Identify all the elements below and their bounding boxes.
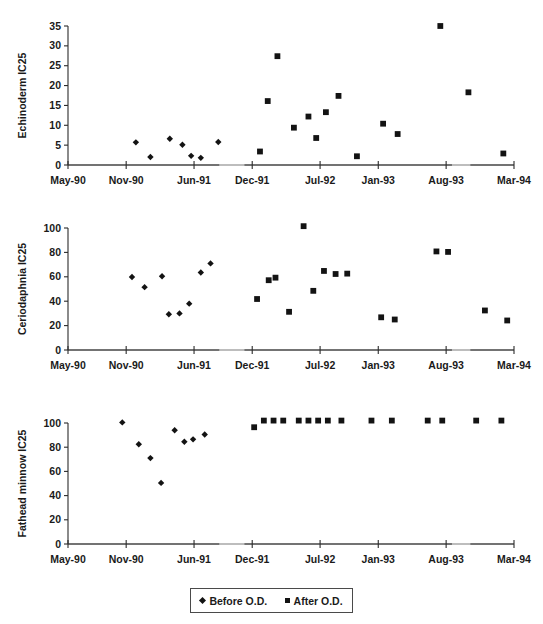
x-axis-tick-label: May-90 [50,174,86,186]
y-axis-tick-label: 100 [43,222,61,234]
y-axis-tick-label: 20 [49,79,61,91]
data-point-square [280,418,286,424]
y-axis-tick-label: 0 [55,159,61,171]
x-axis-tick-label: Jun-91 [177,174,211,186]
data-point-square [395,131,401,137]
data-point-diamond [141,284,147,290]
x-axis-tick-label: Nov-90 [109,174,144,186]
data-point-square [265,98,271,104]
data-point-square [425,418,431,424]
data-point-square [271,418,277,424]
data-point-square [473,418,479,424]
data-point-diamond [215,139,221,145]
x-axis-tick-label: Jun-91 [177,359,211,371]
data-point-square [251,424,257,430]
data-point-square [344,271,350,277]
y-axis-tick-label: 60 [49,270,61,282]
data-point-square [336,93,342,99]
chart-panel-ceriodaphnia: 020406080100May-90Nov-90Jun-91Dec-91Jul-… [0,195,543,391]
data-point-square [321,268,327,274]
data-point-diamond [179,142,185,148]
data-point-diamond [186,300,192,306]
data-point-square [482,308,488,314]
figure-root: 05101520253035May-90Nov-90Jun-91Dec-91Ju… [0,0,543,624]
x-axis-tick-label: Jan-93 [362,553,395,565]
x-axis-tick-label: Jul-92 [305,174,336,186]
x-axis-tick-label: Jan-93 [362,174,395,186]
legend-entry-after: After O.D. [285,594,343,607]
data-point-diamond [188,153,194,159]
y-axis-tick-label: 20 [49,513,61,525]
data-point-square [437,23,443,29]
data-point-square [333,271,339,277]
y-axis-tick-label: 100 [43,417,61,429]
x-axis-tick-label: Nov-90 [109,359,144,371]
data-point-diamond [176,310,182,316]
data-point-square [504,318,510,324]
x-axis-tick-label: Jul-92 [305,553,336,565]
data-point-diamond [166,311,172,317]
data-point-diamond [147,455,153,461]
data-point-square [498,418,504,424]
data-point-square [378,314,384,320]
y-axis-tick-label: 10 [49,119,61,131]
data-point-square [389,418,395,424]
x-axis-tick-label: Nov-90 [109,553,144,565]
data-point-diamond [181,439,187,445]
data-point-square [286,309,292,315]
data-point-square [369,418,375,424]
y-axis-tick-label: 40 [49,489,61,501]
data-point-square [380,121,386,127]
x-axis-tick-label: Jun-91 [177,553,211,565]
y-axis-tick-label: 80 [49,441,61,453]
data-point-diamond [119,419,125,425]
data-point-square [323,109,329,115]
scatter-plot-echinoderm: 05101520253035May-90Nov-90Jun-91Dec-91Ju… [0,0,543,195]
legend-container: Before O.D. After O.D. [190,588,352,613]
scatter-plot-fathead-minnow: 020406080100May-90Nov-90Jun-91Dec-91Jul-… [0,391,543,576]
data-point-square [434,249,440,255]
data-point-square [500,151,506,157]
data-point-square [273,275,279,281]
data-point-diamond [133,139,139,145]
y-axis-tick-label: 60 [49,465,61,477]
x-axis-tick-label: Mar-94 [497,359,531,371]
scatter-plot-ceriodaphnia: 020406080100May-90Nov-90Jun-91Dec-91Jul-… [0,195,543,391]
data-point-square [439,418,445,424]
x-axis-tick-label: Jan-93 [362,359,395,371]
y-axis-tick-label: 20 [49,319,61,331]
x-axis-tick-label: Mar-94 [497,553,531,565]
data-point-square [254,296,260,302]
data-point-square [306,418,312,424]
x-axis-tick-label: Dec-91 [235,553,270,565]
chart-panel-fathead-minnow: 020406080100May-90Nov-90Jun-91Dec-91Jul-… [0,391,543,576]
x-axis-tick-label: May-90 [50,553,86,565]
data-point-diamond [129,274,135,280]
data-point-diamond [147,154,153,160]
series-before-od [129,260,214,317]
x-axis-tick-label: Jul-92 [305,359,336,371]
data-point-diamond [167,136,173,142]
x-axis-tick-label: Aug-93 [428,174,464,186]
data-point-diamond [159,273,165,279]
y-axis-tick-label: 35 [49,20,61,32]
data-point-square [313,135,319,141]
y-axis-tick-label: 25 [49,59,61,71]
legend: Before O.D. After O.D. [0,588,543,613]
data-point-square [306,114,312,120]
data-point-diamond [136,441,142,447]
y-axis-tick-label: 40 [49,295,61,307]
data-point-diamond [190,436,196,442]
legend-entry-before: Before O.D. [200,594,267,607]
data-point-diamond [198,269,204,275]
data-point-square [315,418,321,424]
data-point-square [445,249,451,255]
data-point-square [466,89,472,95]
data-point-square [275,53,281,59]
data-point-square [325,418,331,424]
data-point-square [339,418,345,424]
x-axis-tick-label: Dec-91 [235,359,270,371]
data-point-square [392,317,398,323]
data-point-diamond [158,480,164,486]
y-axis-tick-label: 0 [55,344,61,356]
